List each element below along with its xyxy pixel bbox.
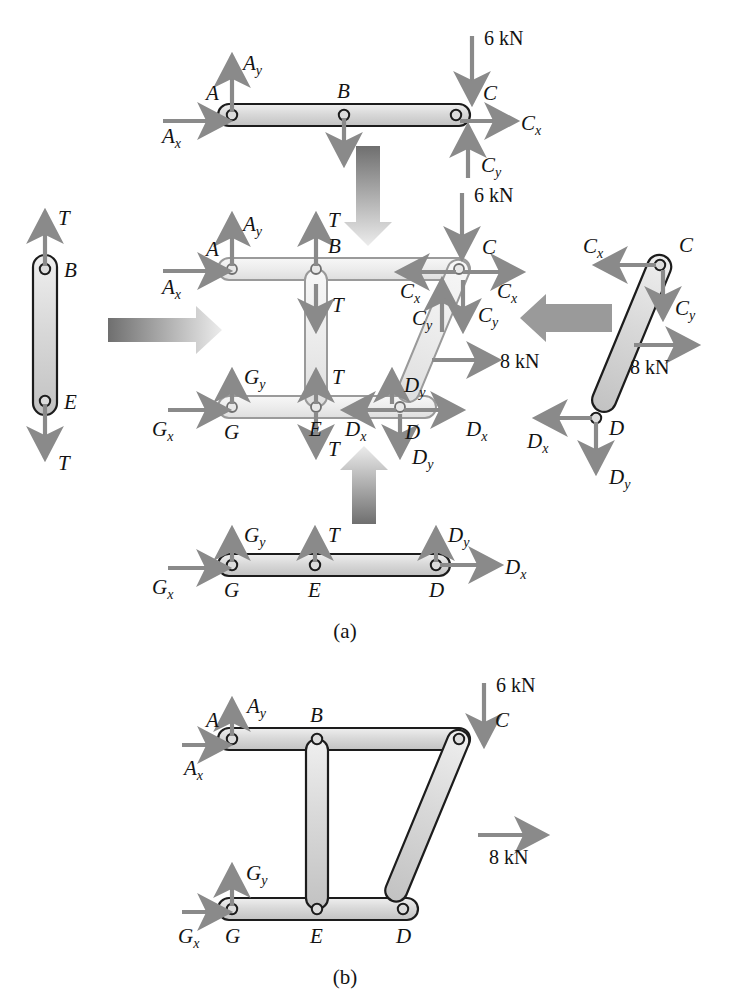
figure-root: A B C Ax Ay T 6 kN Cx Cy T B E T Cx C Cy… [0,0,740,996]
center-label-E: E [308,417,322,441]
frame-label-8kN: 8 kN [489,846,528,868]
label-Gx-bottom: Gx [152,575,174,602]
member-GD-bottom [218,554,450,576]
frame-pin-C [454,734,464,744]
label-Dx-link: Dx [526,429,549,456]
label-Ax-top: Ax [160,124,182,151]
pin-C-link [655,260,665,270]
frame-label-E: E [309,924,323,948]
center-exploded-assembly [218,256,473,418]
label-T-link-top: T [58,206,71,230]
transition-arrow-left-right [108,306,222,354]
label-Cx-top: Cx [521,111,542,138]
transition-arrow-top-down [344,146,392,246]
label-G-bottom: G [224,578,239,602]
center-label-G: G [224,420,239,444]
center-label-D: D [404,420,420,444]
frame-member-AC [218,728,470,750]
label-Cy-link: Cy [675,296,696,323]
frame-pin-E [312,904,322,914]
center-label-T-B-up: T [328,208,341,232]
frame-member-CD [382,726,473,904]
transition-arrow-right-left [520,294,612,342]
caption-b: (b) [333,965,358,989]
label-Dy-bottom: Dy [447,523,470,550]
label-B-link: B [64,258,77,282]
center-label-Dy-down: Dy [411,445,434,472]
frame-label-C: C [495,708,510,732]
label-Ay-top: Ay [241,51,263,78]
frame-label-A: A [204,708,219,732]
frame-label-B: B [310,703,323,727]
center-pin-D [395,402,405,412]
member-BE-link [33,255,57,415]
label-8kN-link: 8 kN [630,356,669,378]
center-label-8kN: 8 kN [500,350,539,372]
label-Cx-link: Cx [583,234,604,261]
frame-label-Gy: Gy [246,861,268,888]
center-label-A: A [204,237,219,261]
caption-a: (a) [333,619,356,643]
center-label-Cx-left: Cx [400,279,421,306]
label-B-top: B [337,79,350,103]
fbd-svg: A B C Ax Ay T 6 kN Cx Cy T B E T Cx C Cy… [0,0,740,996]
center-label-Ax: Ax [160,275,182,302]
center-label-6kN: 6 kN [474,184,513,206]
label-C-link: C [679,233,694,257]
frame-label-D: D [395,924,411,948]
center-label-T-E-down: T [328,437,341,461]
frame-label-Ax: Ax [182,756,204,783]
frame-label-G: G [225,924,240,948]
center-label-Gx: Gx [152,417,174,444]
center-member-AC [218,258,470,280]
frame-pin-D [398,904,408,914]
frame-label-6kN: 6 kN [496,674,535,696]
label-6kN-top: 6 kN [484,27,523,49]
center-label-T-B-down: T [332,293,345,317]
transition-arrow-bottom-up [340,446,388,524]
frame-pin-B [312,734,322,744]
center-label-Gy: Gy [244,365,266,392]
label-E-link: E [63,390,77,414]
center-label-Ay: Ay [241,212,263,239]
pin-D-link [591,413,601,423]
pin-C [451,110,461,120]
center-label-Dx-left: Dx [344,417,367,444]
label-C-top: C [483,81,498,105]
label-Dy-link: Dy [608,465,631,492]
frame-label-Gx: Gx [178,924,200,951]
label-E-bottom: E [307,578,321,602]
frame-member-BE [306,739,328,909]
label-Cy-top: Cy [481,153,502,180]
label-Gy-bottom: Gy [244,523,266,550]
label-D-bottom: D [428,578,444,602]
center-label-B: B [328,234,341,258]
label-D-link: D [608,416,624,440]
label-A-top: A [204,81,219,105]
label-Dx-bottom: Dx [504,555,527,582]
label-T-bottom: T [328,523,341,547]
center-label-Cy-down: Cy [478,303,499,330]
center-label-Dx-right: Dx [465,417,488,444]
assembled-frame [218,726,473,920]
center-label-T-E-up: T [332,365,345,389]
label-T-link-bottom: T [58,451,71,475]
frame-label-Ay: Ay [245,694,267,721]
center-label-Cx-right: Cx [497,279,518,306]
center-label-C: C [482,235,497,259]
